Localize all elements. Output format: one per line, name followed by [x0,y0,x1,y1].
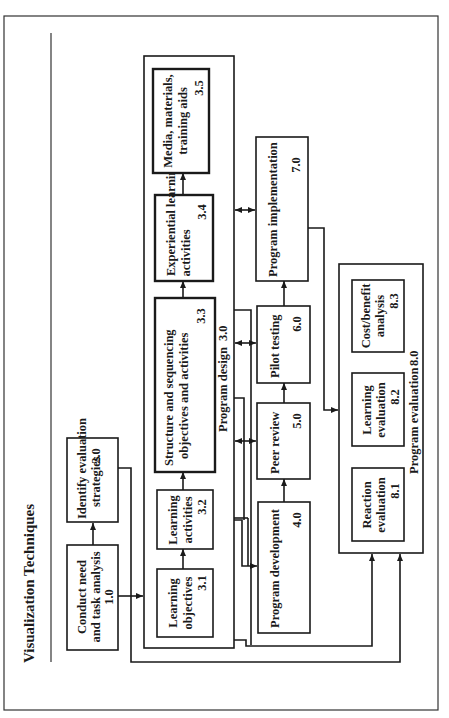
node-number: 3.1 [195,575,209,591]
node-label: Cost/benefit [359,283,373,348]
program-evaluation-label: Program evaluation 8.0 [407,350,421,474]
node-label: Program implementation [266,142,280,277]
node-8-3-cost-benefit[interactable]: Cost/benefit analysis 8.3 [352,280,404,352]
program-design-label: Program design 3.0 [216,325,230,432]
node-number: 6.0 [290,316,304,332]
node-label: Learning [166,495,180,545]
node-number: 3.5 [192,80,206,96]
node-number: 7.0 [289,157,303,173]
node-number: 4.0 [290,512,304,528]
node-4-0-program-development[interactable]: Program development 4.0 [258,502,310,633]
node-number: 8.2 [388,389,402,405]
node-number: 3.2 [195,499,209,515]
node-3-5-media-materials[interactable]: Media, materials, training aids 3.5 [153,69,209,173]
node-label: Learning [166,578,180,628]
node-label: objectives and activities [177,332,191,459]
node-number: 8.1 [388,483,402,499]
node-number: 2.0 [89,448,103,464]
node-3-2-learning-activities[interactable]: Learning activities 3.2 [157,490,213,549]
node-7-0-program-implementation[interactable]: Program implementation 7.0 [256,137,308,281]
node-label: Reaction [360,481,374,528]
node-5-0-peer-review[interactable]: Peer review 5.0 [257,403,310,479]
svg-text:8.0: 8.0 [407,350,421,366]
node-3-3-structure-sequencing[interactable]: Structure and sequencing objectives and … [155,298,215,472]
page-title: Visualization Techniques [21,504,37,663]
node-2-0-identify-evaluation-strategies[interactable]: Identify evaluation strategies 2.0 [67,418,118,522]
diagram-canvas: Visualization Techniques [0,0,449,718]
node-label: Identify evaluation [75,418,89,519]
node-label: Media, materials, [161,74,175,167]
node-label: Program development [268,508,282,628]
node-number: 3.4 [195,203,209,219]
node-label: evaluation [374,477,388,533]
node-number: 3.3 [194,308,208,324]
node-label: Learning [360,385,374,435]
node-label: and task analysis [89,551,103,642]
node-6-0-pilot-testing[interactable]: Pilot testing 6.0 [257,306,310,383]
svg-text:Program design: Program design [216,347,230,432]
node-3-1-learning-objectives[interactable]: Learning objectives 3.1 [157,569,213,637]
svg-text:3.0: 3.0 [216,325,230,341]
node-number: 5.0 [290,413,304,429]
node-label: Pilot testing [268,314,282,378]
svg-text:Program evaluation: Program evaluation [407,368,421,474]
node-label: Structure and sequencing [162,329,176,466]
node-label: Peer review [268,412,282,474]
node-label: analysis [373,295,387,338]
node-label: Conduct need [75,560,89,634]
node-label: objectives [181,576,195,629]
node-number: 1.0 [102,589,116,605]
node-label: Experiential learning [164,162,178,276]
node-label: activities [179,229,193,276]
node-8-1-reaction-evaluation[interactable]: Reaction evaluation 8.1 [352,468,404,541]
node-label: evaluation [374,382,388,438]
node-1-0-conduct-need-analysis[interactable]: Conduct need and task analysis 1.0 [67,545,118,650]
node-label: training aids [176,87,190,155]
node-number: 8.3 [387,293,401,309]
node-8-2-learning-evaluation[interactable]: Learning evaluation 8.2 [352,373,404,446]
node-label: activities [181,496,195,543]
